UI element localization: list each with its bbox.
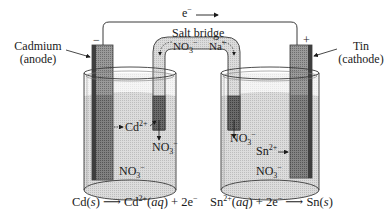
tin-electrode	[290, 45, 312, 178]
cathode-role: (cathode)	[333, 53, 389, 66]
sn-ion-label: Sn2+	[256, 145, 277, 158]
cathode-half-reaction: Sn2+(aq) + 2e− ⟶ Sn(s)	[210, 196, 333, 209]
anode-label: Cadmium (anode)	[8, 40, 68, 66]
anode-plug-nitrate: NO3−	[152, 141, 178, 154]
cathode-solution-nitrate: NO3−	[256, 165, 282, 178]
reaction-arrow-icon: ⟶	[103, 195, 121, 209]
cathode-terminal-sign: +	[303, 34, 310, 47]
bridge-anion: NO3−	[173, 40, 197, 53]
cd-ion-label: Cd2+	[125, 121, 148, 134]
cathode-plug-nitrate: NO3−	[230, 132, 256, 145]
reaction-arrow-icon: ⟶	[285, 195, 303, 209]
electron-label: e−	[182, 7, 192, 20]
anode-terminal-sign: −	[93, 34, 100, 47]
anode-role: (anode)	[8, 53, 68, 66]
cadmium-pointer-arrow	[66, 50, 90, 57]
anode-solution-nitrate: NO3−	[119, 165, 145, 178]
anode-half-reaction: Cd(s) ⟶ Cd2+(aq) + 2e−	[72, 196, 198, 209]
cathode-label: Tin (cathode)	[333, 40, 389, 66]
cadmium-electrode	[92, 45, 113, 180]
salt-bridge-label: Salt bridge	[172, 27, 224, 40]
bridge-cation: Na+	[209, 40, 226, 53]
